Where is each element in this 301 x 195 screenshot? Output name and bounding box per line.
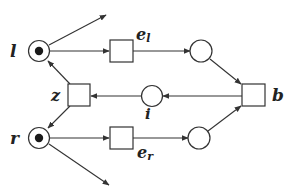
label-e-l-main: e (136, 25, 146, 44)
label-z: z (50, 86, 61, 105)
label-l: l (10, 41, 17, 61)
label-e-r-main: e (137, 143, 147, 162)
label-e-l: el (136, 25, 150, 45)
place-top-right (190, 40, 212, 62)
arc-pbottom-to-b (208, 106, 241, 131)
transition-b (242, 84, 265, 106)
arc-r-out-bottom (49, 144, 109, 185)
label-e-r: er (137, 143, 154, 163)
petri-net-diagram: l r z i b el er (0, 0, 301, 195)
label-e-r-sub: r (147, 150, 154, 163)
place-l (29, 41, 50, 62)
label-e-l-sub: l (146, 32, 150, 45)
arc-z-to-r (48, 106, 70, 128)
arc-ptop-to-b (210, 59, 241, 84)
place-r (29, 128, 50, 149)
token-icon (35, 134, 43, 142)
transition-e-r (110, 127, 133, 149)
label-i: i (145, 105, 151, 123)
transition-z (68, 84, 90, 106)
transition-e-l (110, 40, 133, 62)
place-i (142, 86, 163, 107)
label-b: b (272, 85, 284, 105)
arc-z-to-l (48, 61, 70, 84)
arc-l-out-top (49, 15, 106, 45)
label-r: r (10, 128, 20, 148)
token-icon (35, 47, 43, 55)
place-bottom-right (188, 127, 210, 149)
